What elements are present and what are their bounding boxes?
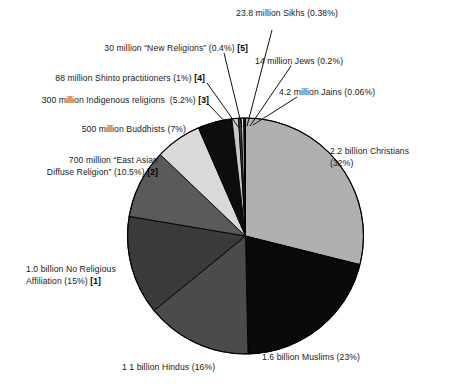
label-jews: 14 million Jews (0.2%) (255, 56, 343, 68)
label-new-religions: 30 million “New Religions” (0.4%) [5] (104, 43, 248, 55)
label-sikhs: 23.8 million Sikhs (0.38%) (236, 8, 338, 20)
pie-slices-group (127, 118, 363, 354)
pie-chart-graphic (0, 0, 452, 388)
label-christians: 2.2 billion Christians(32%) (330, 146, 409, 169)
leader-line-jains (253, 97, 297, 125)
label-jains: 4.2 million Jains (0.06%) (279, 87, 375, 99)
label-no-religious-affiliation: 1.0 billion No ReligiousAffiliation (15%… (26, 264, 116, 287)
label-muslims: 1.6 billion Muslims (23%) (262, 352, 360, 364)
label-buddhists: 500 million Buddhists (7%) (82, 124, 186, 136)
leader-line-new-religions (224, 53, 242, 127)
pie-chart-figure: 30 million “New Religions” (0.4%) [5] 23… (0, 0, 452, 388)
label-shinto: 88 million Shinto practitioners (1%) [4] (55, 73, 205, 85)
label-east-asian-diffuse-religion: 700 million “East AsianDiffuse Religion”… (47, 155, 158, 178)
label-indigenous-religions: 300 million Indigenous religions (5.2%) … (42, 95, 209, 107)
label-hindus: 1 1 billion Hindus (16%) (122, 362, 215, 374)
